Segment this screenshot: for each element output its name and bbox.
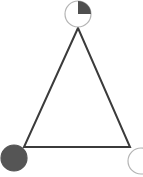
- figure-container: [0, 0, 143, 177]
- node-top[interactable]: [65, 1, 91, 27]
- node-bottom-left[interactable]: [1, 145, 27, 171]
- node-bottom-left-circle: [1, 145, 27, 171]
- triangle-node-diagram: [0, 0, 143, 177]
